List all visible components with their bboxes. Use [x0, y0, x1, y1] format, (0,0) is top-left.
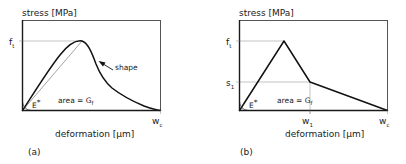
- chart-b-x-tick-label-wc: wc: [379, 116, 389, 128]
- chart-b-svg: stress [MPa] ft s1: [203, 0, 406, 164]
- chart-a-caption: (a): [28, 147, 41, 157]
- chart-a-shape-label: shape: [115, 63, 138, 72]
- chart-b-caption: (b): [240, 147, 253, 157]
- chart-a-fracture-energy-label: area = Gf: [58, 96, 95, 106]
- figure-softening-laws: stress [MPa] ft wc: [0, 0, 406, 164]
- chart-a-svg: stress [MPa] ft wc: [0, 0, 203, 164]
- chart-b-x-axis-title: deformation [μm]: [285, 129, 364, 139]
- chart-b-modulus-label: E*: [249, 98, 258, 110]
- chart-a-y-tick-label: ft: [9, 37, 15, 49]
- chart-a-x-tick-label: wc: [152, 116, 162, 128]
- chart-a-y-axis-title: stress [MPa]: [22, 8, 77, 18]
- chart-a-x-axis-title: deformation [μm]: [55, 129, 134, 139]
- chart-a-shape-arrowhead: [99, 61, 106, 67]
- chart-b-y-tick-label-s1: s1: [226, 78, 235, 90]
- chart-b-fracture-energy-label: area = Gf: [277, 96, 314, 106]
- chart-b-plot-frame: [240, 21, 388, 111]
- chart-b-x-tick-label-w1: w1: [302, 116, 313, 128]
- chart-b-stress-curve: [240, 41, 388, 111]
- chart-b-y-tick-label-ft: ft: [226, 37, 232, 49]
- panel-b: stress [MPa] ft s1: [203, 0, 406, 164]
- chart-a-modulus-label: E*: [32, 98, 41, 110]
- chart-b-y-axis-title: stress [MPa]: [239, 8, 294, 18]
- panel-a: stress [MPa] ft wc: [0, 0, 203, 164]
